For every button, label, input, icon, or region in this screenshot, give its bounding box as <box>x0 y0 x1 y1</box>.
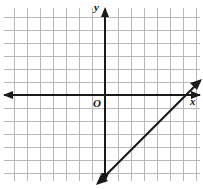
line-segment <box>98 81 200 183</box>
x-axis-label: x <box>190 96 196 107</box>
origin-label: O <box>93 98 101 109</box>
plotted-line <box>0 0 203 189</box>
coordinate-plane-figure: y x O <box>0 0 203 189</box>
y-axis-label: y <box>94 2 99 13</box>
